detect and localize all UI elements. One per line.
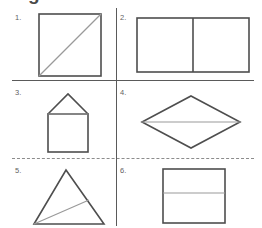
cell-5-number: 5.	[15, 166, 21, 175]
house-body-outline	[48, 114, 88, 152]
house-roof-outline	[48, 94, 88, 114]
triangle-outline	[34, 170, 104, 224]
cell-6: 6.	[118, 162, 262, 226]
cell-3-number: 3.	[15, 88, 21, 97]
cell-6-number: 6.	[120, 166, 126, 175]
figure-square-with-horizontal-line	[162, 168, 226, 224]
divider-row-2	[12, 158, 254, 159]
cevian-line	[34, 200, 89, 224]
cell-3: 3.	[12, 84, 112, 156]
worksheet-page: Figures 1. 2. 3.	[0, 0, 262, 228]
divider-row-1	[12, 80, 254, 81]
figure-square-with-diagonal	[38, 13, 102, 77]
diagonal-line	[39, 14, 101, 76]
cell-1: 1.	[12, 10, 112, 78]
cell-2: 2.	[118, 10, 262, 78]
square-outline	[163, 169, 225, 223]
cell-4-number: 4.	[120, 88, 126, 97]
cell-4: 4.	[118, 84, 262, 156]
divider-column	[116, 8, 117, 226]
figure-house-pentagon	[44, 92, 96, 154]
cell-5: 5.	[12, 162, 112, 226]
cell-1-number: 1.	[15, 13, 21, 22]
figure-rhombus-with-horizontal-line	[140, 94, 242, 150]
page-title: Figures	[10, 0, 82, 5]
cell-2-number: 2.	[120, 13, 126, 22]
figure-triangle-with-cevian	[32, 168, 112, 226]
figure-rectangle-with-vertical-line	[136, 17, 250, 73]
